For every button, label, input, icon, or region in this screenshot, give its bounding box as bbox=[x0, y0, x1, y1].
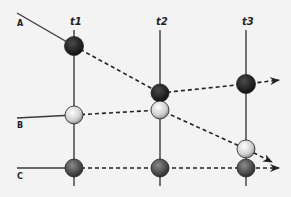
node-b-t1 bbox=[65, 106, 83, 124]
node-b-t2 bbox=[151, 101, 169, 119]
entity-a-label: A bbox=[17, 19, 24, 28]
node-c-t2 bbox=[151, 159, 169, 177]
t3-label: t3 bbox=[242, 16, 254, 27]
t2-label: t2 bbox=[156, 16, 168, 27]
t1-label: t1 bbox=[70, 16, 82, 27]
trajectory-diagram: t1 t2 t3 A B C bbox=[0, 0, 291, 197]
node-a-t2 bbox=[151, 84, 169, 102]
node-a-t1 bbox=[65, 37, 84, 56]
entity-c-label: C bbox=[17, 172, 23, 181]
node-b-t3 bbox=[237, 140, 255, 158]
diagram-svg: t1 t2 t3 A B C bbox=[0, 0, 291, 197]
entity-lead-lines bbox=[17, 13, 74, 168]
entity-b-label: B bbox=[17, 121, 23, 130]
node-a-t3 bbox=[237, 75, 256, 94]
node-c-t1 bbox=[65, 159, 83, 177]
node-c-t3 bbox=[237, 159, 255, 177]
